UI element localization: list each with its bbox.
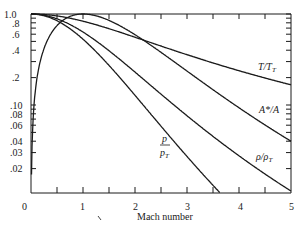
svg-text:pT: pT [159,147,170,160]
x-axis-title: Mach number [137,211,193,222]
y-tick-label: .08 [10,109,23,120]
y-tick-label: .8 [12,18,20,29]
y-tick-label: .04 [10,136,23,147]
x-tick-label: 1 [80,201,85,212]
label-rho-rhot: ρ/ρT [255,151,273,164]
y-tick-label: .4 [12,45,20,56]
label-p-pt: p pT [159,133,170,160]
axes [31,14,291,193]
y-tick-label: .2 [12,72,20,83]
x-tick-label: 4 [238,201,243,212]
curve-rho-rhot [31,14,291,191]
y-tick-label: .02 [10,163,23,174]
label-astar-a: A*/A [258,104,280,115]
isentropic-flow-chart: 1.0 .8 .6 .4 .2 .10 .08 .06 .04 .03 .02 … [0,0,308,228]
y-tick-label: .03 [10,147,23,158]
stray-mark [98,216,101,220]
x-tick-label: 0 [22,201,27,212]
curves [31,14,291,193]
y-tick-label: .06 [10,120,23,131]
svg-text:p: p [161,133,167,144]
x-tick-label: 5 [289,201,294,212]
y-tick-label: .6 [12,29,20,40]
label-t-tt: T/TT [258,61,277,74]
curve-p-pt [31,14,220,193]
